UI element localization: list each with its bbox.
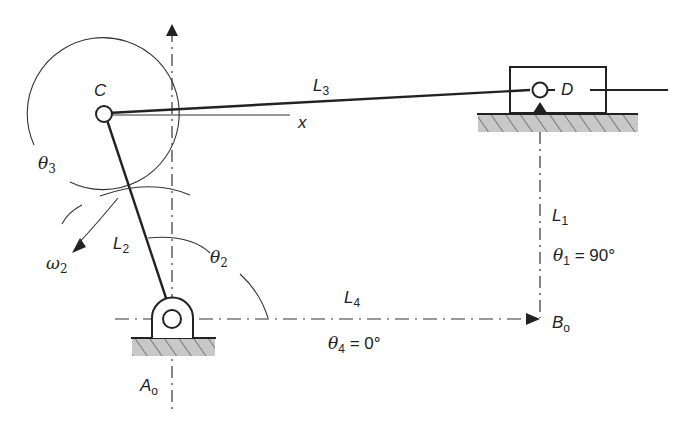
label-theta3: θ3 (38, 155, 56, 175)
label-L3: L3 (313, 77, 329, 97)
label-theta4: θ4 = 0° (328, 335, 381, 355)
label-L4: L4 (344, 289, 360, 309)
slider-D (477, 67, 668, 132)
pivot-A0 (131, 298, 216, 357)
omega2-arc (100, 187, 190, 196)
label-theta2: θ2 (210, 249, 228, 269)
label-x: x (298, 114, 307, 131)
label-D: D (561, 81, 573, 98)
omega2-arrowhead (72, 238, 86, 253)
label-omega2: ω2 (46, 255, 68, 275)
label-C: C (94, 82, 106, 99)
label-theta1: θ1 = 90° (553, 247, 615, 267)
joint-C (96, 106, 112, 122)
label-L2: L2 (113, 235, 129, 255)
label-A0: Ao (140, 377, 158, 397)
label-B0: Bo (552, 314, 570, 334)
link-L2 (106, 117, 172, 316)
theta2-arc (148, 237, 210, 253)
mechanism-drawing (0, 0, 690, 437)
label-L1: L1 (552, 207, 568, 227)
